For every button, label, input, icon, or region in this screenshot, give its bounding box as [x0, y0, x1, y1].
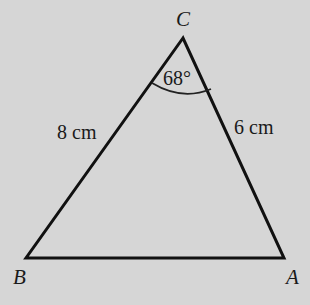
vertex-label-a: A	[286, 267, 299, 288]
vertex-label-b: B	[13, 267, 26, 288]
vertex-label-c: C	[176, 9, 190, 30]
triangle-abc	[26, 38, 284, 258]
triangle-diagram: C B A 68° 8 cm 6 cm	[0, 0, 310, 305]
side-ca-label: 6 cm	[234, 117, 273, 137]
triangle-figure	[0, 0, 310, 305]
side-cb-label: 8 cm	[57, 122, 96, 142]
angle-c-label: 68°	[163, 68, 191, 88]
